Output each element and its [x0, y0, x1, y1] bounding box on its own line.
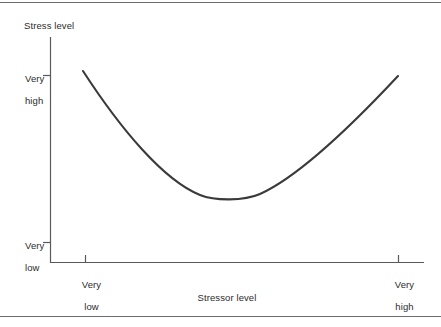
x-tick-label-very-high: Very high: [380, 268, 418, 323]
y-tick-label-very-high-line1: Very: [25, 73, 44, 84]
y-tick-label-very-low-line2: low: [25, 262, 40, 273]
x-tick-label-very-low-line1: Very: [82, 279, 101, 290]
y-tick-label-very-low: Very low: [14, 229, 46, 284]
y-axis-title: Stress level: [24, 20, 74, 31]
stress-response-curve: [83, 71, 398, 199]
y-tick-label-very-high: Very high: [14, 62, 46, 117]
x-tick-label-very-high-line2: high: [395, 301, 413, 312]
x-tick-label-very-low: Very low: [67, 268, 105, 323]
y-tick-label-very-high-line2: high: [25, 95, 43, 106]
x-tick-label-very-low-line2: low: [84, 301, 99, 312]
x-axis-title: Stressor level: [157, 292, 297, 303]
figure-container: Stress level Very high Very low Very low…: [0, 0, 441, 327]
y-tick-label-very-low-line1: Very: [25, 240, 44, 251]
x-tick-label-very-high-line1: Very: [395, 279, 414, 290]
